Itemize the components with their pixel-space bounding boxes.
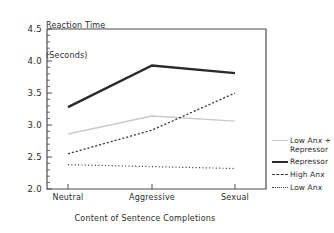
- y-axis-major-ticks: [47, 29, 52, 189]
- series-line-low-anx: [68, 165, 235, 169]
- x-tick-label-sexual: Sexual: [221, 193, 249, 202]
- legend-item-high-anx: High Anx: [272, 170, 334, 180]
- legend: Low Anx +Repressor Repressor High Anx Lo…: [272, 136, 334, 196]
- legend-swatch-low-anx-plus-repressor: [272, 136, 288, 146]
- legend-label-repressor: Repressor: [290, 157, 328, 166]
- x-axis-title: Content of Sentence Completions: [0, 214, 290, 223]
- series-line-low-anx-plus-repressor: [68, 116, 235, 134]
- legend-label-low-anx: Low Anx: [290, 183, 322, 192]
- plot-frame: [47, 29, 266, 189]
- legend-swatch-repressor: [272, 157, 288, 167]
- x-axis-ticks: [68, 184, 235, 189]
- legend-item-low-anx: Low Anx: [272, 183, 334, 193]
- series-line-repressor: [68, 65, 235, 107]
- chart-container: Reaction Time (Seconds) 4.5 4.0 3.5 3.0 …: [0, 0, 334, 233]
- legend-item-repressor: Repressor: [272, 157, 334, 167]
- series-line-high-anx: [68, 93, 235, 154]
- x-tick-label-aggressive: Aggressive: [129, 193, 175, 202]
- legend-label-high-anx: High Anx: [290, 170, 325, 179]
- legend-item-low-anx-plus-repressor: Low Anx +Repressor: [272, 136, 334, 154]
- legend-label-line2: Repressor: [290, 145, 328, 154]
- legend-label-line1: Low Anx +: [290, 136, 331, 145]
- legend-swatch-low-anx: [272, 183, 288, 193]
- legend-swatch-high-anx: [272, 170, 288, 180]
- x-tick-label-neutral: Neutral: [53, 193, 84, 202]
- legend-label-low-anx-plus-repressor: Low Anx +Repressor: [290, 136, 331, 154]
